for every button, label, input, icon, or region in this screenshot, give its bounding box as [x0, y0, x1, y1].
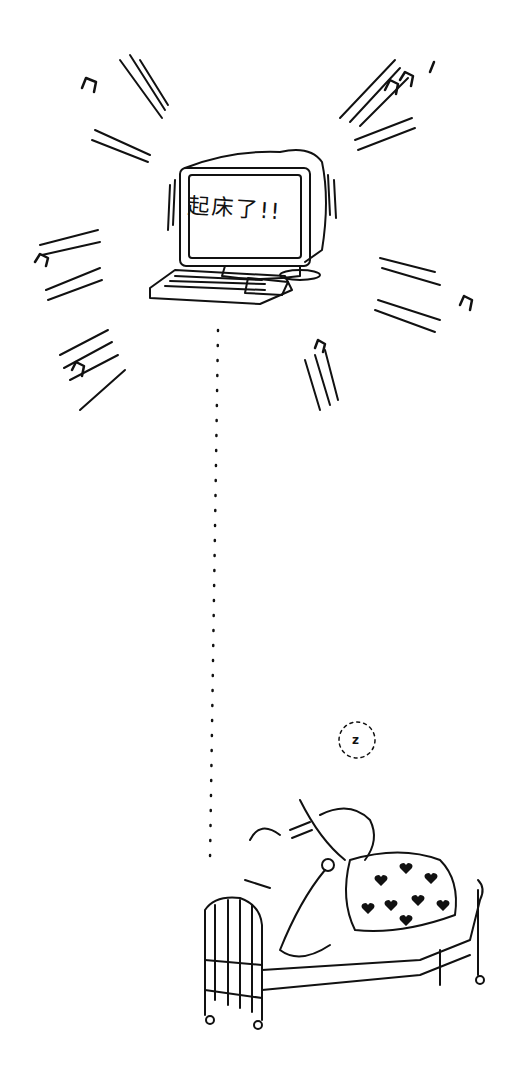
sleeper-figure	[245, 800, 456, 956]
heart-pattern	[362, 863, 450, 926]
illustration-canvas	[0, 0, 529, 1082]
alarm-burst-icon	[40, 55, 440, 410]
snore-text: z	[352, 733, 359, 747]
dotted-connector	[210, 330, 218, 860]
computer-icon	[150, 150, 336, 304]
screen-message: 起床了!!	[187, 187, 283, 225]
